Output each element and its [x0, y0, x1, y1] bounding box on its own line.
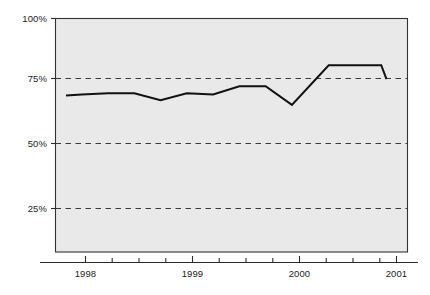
x-axis-major-ticks	[86, 256, 397, 263]
chart-canvas: 100% 75% 50% 25% 1998 1999 2000	[0, 0, 430, 295]
x-axis-label-2001: 2001	[386, 268, 408, 279]
x-axis-label-1999: 1999	[182, 268, 204, 279]
y-axis-label-100: 100%	[22, 13, 47, 24]
x-axis-minor-ticks	[112, 258, 380, 263]
plot-background	[56, 19, 408, 253]
y-axis-label-25: 25%	[28, 203, 48, 214]
x-axis-label-1998: 1998	[75, 268, 97, 279]
y-axis-label-50: 50%	[28, 138, 48, 149]
line-chart: 100% 75% 50% 25% 1998 1999 2000	[0, 0, 430, 295]
x-axis-label-2000: 2000	[289, 268, 311, 279]
y-axis-ticks	[51, 19, 56, 209]
y-axis-label-75: 75%	[28, 73, 48, 84]
